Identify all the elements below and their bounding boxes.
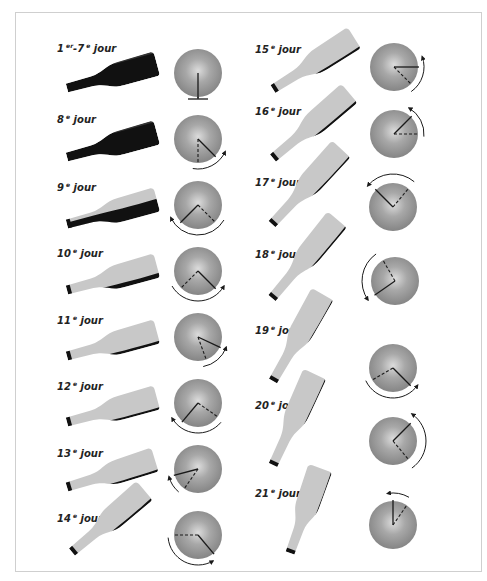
bottle — [261, 367, 329, 472]
step-day-8: 8 e jour — [57, 113, 225, 169]
step-day-12: 12 e jour — [57, 379, 222, 436]
day-label: 21 e jour — [255, 487, 302, 499]
sediment — [63, 50, 160, 99]
bottle — [63, 187, 163, 238]
day-label: 16 e jour — [255, 105, 302, 117]
sediment — [63, 119, 160, 168]
step-day-1: 1 er-7 e jour — [57, 42, 222, 100]
day-label: 8 e jour — [57, 113, 97, 125]
bottle — [261, 286, 336, 389]
rotation-disc — [169, 445, 222, 493]
rotation-disc — [369, 414, 426, 468]
riddling-diagram: 1 er-7 e jour8 e jour9 e jour10 e jour11… — [0, 0, 487, 581]
rotation-disc — [172, 247, 224, 301]
bottle — [63, 319, 163, 370]
day-label: 9 e jour — [57, 181, 97, 193]
bottle — [277, 462, 334, 559]
bottle — [63, 385, 163, 436]
step-day-21: 21 e jour — [255, 462, 417, 559]
bottle-glass — [64, 385, 160, 433]
rotation-disc — [168, 511, 222, 565]
bottle-glass — [266, 27, 361, 99]
step-day-9: 9 e jour — [57, 181, 224, 238]
rotation-disc — [368, 174, 417, 231]
rotation-disc — [370, 43, 424, 92]
day-label: 11 e jour — [57, 314, 104, 326]
rotation-disc — [171, 181, 224, 235]
day-label: 10 e jour — [57, 247, 104, 259]
rotation-disc — [174, 313, 226, 367]
step-day-11: 11 e jour — [57, 313, 226, 370]
bottle — [63, 119, 160, 168]
bottle-glass — [261, 369, 326, 470]
step-day-10: 10 e jour — [57, 247, 224, 304]
rotation-disc — [370, 108, 424, 158]
day-label: 13 e jour — [57, 447, 104, 459]
day-label: 15 e jour — [255, 43, 302, 55]
day-label: 1 er-7 e jour — [57, 42, 117, 54]
day-label: 17 e jour — [255, 176, 302, 188]
rotation-disc — [174, 115, 225, 169]
rotation-disc — [366, 344, 418, 398]
day-label: 12 e jour — [57, 380, 104, 392]
rotation-disc — [369, 493, 417, 549]
rotation-disc — [172, 379, 222, 433]
bottle-glass — [262, 288, 334, 387]
bottle — [265, 26, 363, 101]
rotation-disc — [174, 49, 222, 99]
rotation-disc — [362, 254, 419, 305]
rotation-arrow-icon — [387, 493, 409, 497]
bottle — [63, 253, 163, 304]
bottle-glass — [64, 319, 160, 367]
bottle-glass — [278, 464, 332, 557]
steps-group: 1 er-7 e jour8 e jour9 e jour10 e jour11… — [57, 26, 426, 565]
bottle — [63, 50, 160, 99]
